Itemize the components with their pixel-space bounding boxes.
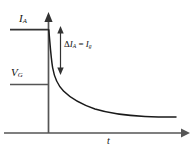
figure-canvas <box>0 0 194 157</box>
gate-current-subscript: g <box>89 43 92 49</box>
gate-voltage-symbol: V <box>11 66 18 78</box>
gate-voltage-label: VG <box>11 67 23 79</box>
anode-current-label: IA <box>19 13 27 25</box>
gate-voltage-subscript: G <box>18 71 23 78</box>
delta-measure-arrow <box>57 26 63 75</box>
time-axis-label: t <box>107 136 110 146</box>
figure-container: IA VG ΔIA = Ig t <box>0 0 194 157</box>
delta-current-annotation: ΔIA = Ig <box>64 40 92 50</box>
equals-sign: = <box>76 39 86 49</box>
anode-current-subscript: A <box>23 17 27 24</box>
horizontal-axis <box>4 129 190 138</box>
